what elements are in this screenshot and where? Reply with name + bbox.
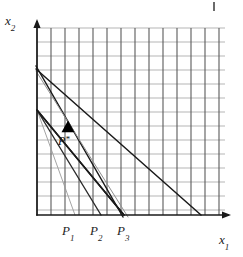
y-axis-label: x2 (5, 14, 15, 31)
plot-canvas (0, 0, 243, 257)
x-axis-arrowhead (222, 211, 231, 218)
tick-label-p1-text: P (62, 223, 70, 238)
axes-group (33, 19, 231, 219)
y-axis-arrowhead (33, 19, 40, 28)
x-axis-label-subscript: 1 (225, 242, 230, 252)
y-axis-label-text: x (5, 13, 11, 28)
figure-container: x2 x1 P1 P2 P3 P* (0, 0, 243, 257)
optimum-point-label: P* (58, 135, 70, 147)
x-axis-label: x1 (219, 233, 229, 250)
tick-label-p2-subscript: 2 (98, 233, 103, 243)
constraint-line (36, 71, 128, 217)
tick-label-p2-text: P (90, 223, 98, 238)
x-axis-label-text: x (219, 232, 225, 247)
optimum-point-label-star: * (65, 134, 70, 144)
tick-label-p3-text: P (117, 223, 125, 238)
tick-label-p1-subscript: 1 (70, 233, 75, 243)
tick-label-p3: P3 (117, 224, 129, 241)
tick-label-p1: P1 (62, 224, 74, 241)
page-edge-artifact (213, 2, 215, 11)
tick-label-p3-subscript: 3 (125, 233, 130, 243)
y-axis-label-subscript: 2 (11, 23, 16, 33)
tick-label-p2: P2 (90, 224, 102, 241)
